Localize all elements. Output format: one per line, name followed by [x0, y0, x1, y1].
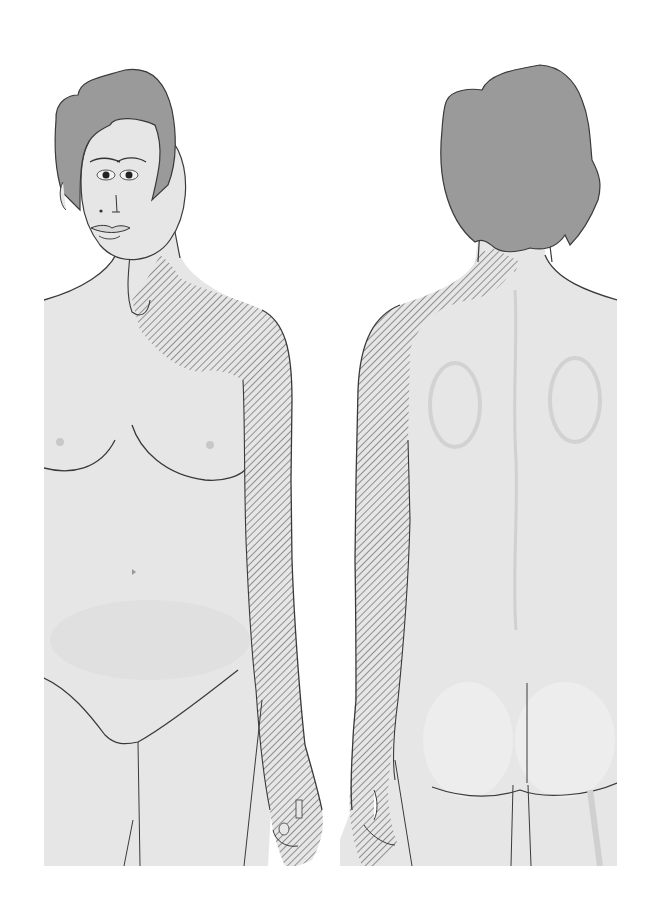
spine — [515, 290, 517, 630]
body-map-diagram — [0, 0, 648, 913]
front-head — [55, 69, 185, 259]
back-view — [330, 240, 617, 866]
front-view — [44, 232, 323, 866]
back-head — [441, 65, 600, 272]
back-hair — [441, 65, 600, 252]
